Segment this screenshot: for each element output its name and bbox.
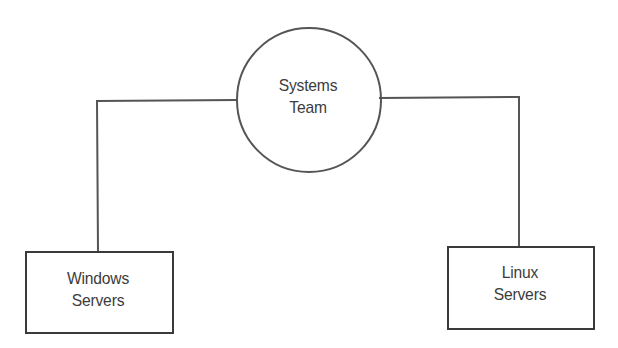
connector-systems-to-windows — [97, 100, 237, 251]
systems-team-label-line-1: Systems — [262, 75, 354, 97]
linux-servers-label-line-1: Linux — [474, 262, 566, 284]
linux-servers-label: Linux Servers — [474, 262, 566, 306]
windows-servers-label-line-1: Windows — [52, 268, 144, 290]
windows-servers-label: Windows Servers — [52, 268, 144, 312]
windows-servers-label-line-2: Servers — [52, 290, 144, 312]
connector-systems-to-linux — [379, 97, 519, 246]
linux-servers-label-line-2: Servers — [474, 284, 566, 306]
systems-team-label: Systems Team — [262, 75, 354, 119]
systems-team-label-line-2: Team — [262, 97, 354, 119]
